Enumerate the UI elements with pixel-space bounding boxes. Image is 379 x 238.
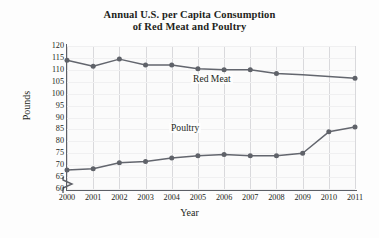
data-point [195, 153, 200, 158]
data-point [143, 159, 148, 164]
data-point [248, 67, 253, 72]
data-point [353, 76, 358, 81]
series-lines [0, 0, 379, 238]
data-point [248, 153, 253, 158]
data-point [91, 64, 96, 69]
data-point [300, 151, 305, 156]
data-point [169, 156, 174, 161]
data-point [195, 66, 200, 71]
data-point [326, 129, 331, 134]
data-point [91, 166, 96, 171]
data-point [117, 160, 122, 165]
chart-figure: Annual U.S. per Capita Consumption of Re… [0, 0, 379, 238]
series-label-poultry: Poultry [169, 123, 201, 133]
data-point [222, 152, 227, 157]
data-point [353, 125, 358, 130]
series-line-poultry [67, 127, 355, 170]
series-label-red-meat: Red Meat [191, 74, 233, 84]
data-point [143, 63, 148, 68]
data-point [65, 58, 70, 63]
data-point [65, 167, 70, 172]
data-point [117, 57, 122, 62]
data-point [222, 67, 227, 72]
data-point [169, 63, 174, 68]
data-point [274, 153, 279, 158]
data-point [274, 71, 279, 76]
